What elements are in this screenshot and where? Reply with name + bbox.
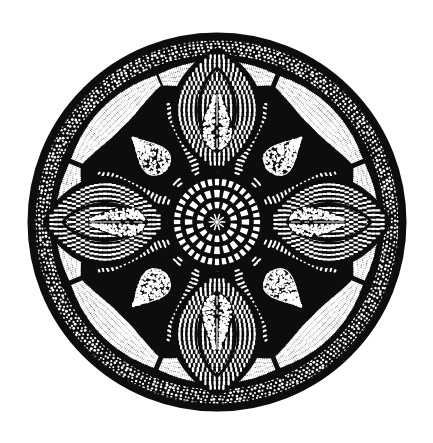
artwork-canvas: Circular Mandala Rosette Symmetrical bla… [0, 0, 433, 443]
central-hub [169, 174, 265, 270]
mandala-illustration: Circular Mandala Rosette Symmetrical bla… [0, 0, 433, 443]
mandala-body [29, 34, 405, 410]
hub-core [208, 213, 226, 231]
